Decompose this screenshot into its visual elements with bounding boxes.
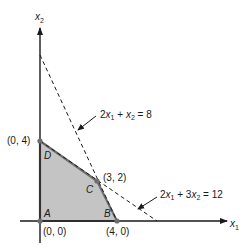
vertex-c-coords: (3, 2): [103, 172, 126, 183]
leader-arrow-constraint-2: [138, 197, 157, 209]
leader-arrow-constraint-1: [78, 116, 96, 130]
constraint-1-label: 2x1 + x2 = 8: [100, 109, 152, 121]
vertex-a-dot: [37, 218, 42, 223]
vertex-c-dot: [94, 178, 99, 183]
constraint-2-label: 2x1 + 3x2 = 12: [160, 189, 223, 201]
vertex-d-label: D: [44, 150, 51, 161]
vertex-b-coords: (4, 0): [106, 226, 129, 237]
x1-axis-label: x1: [229, 218, 239, 231]
vertex-b-dot: [114, 218, 119, 223]
vertex-a-label: A: [43, 208, 51, 219]
vertex-c-label: C: [86, 184, 94, 195]
x2-axis-label: x2: [34, 11, 44, 24]
vertex-d-coords: (0, 4): [7, 135, 30, 146]
vertex-a-coords: (0, 0): [43, 226, 66, 237]
lp-feasible-region-diagram: x2 x1 A B C D (0, 0) (4, 0) (3, 2) (0, 4…: [0, 0, 246, 252]
vertex-b-label: B: [104, 208, 111, 219]
vertex-d-dot: [37, 138, 42, 143]
